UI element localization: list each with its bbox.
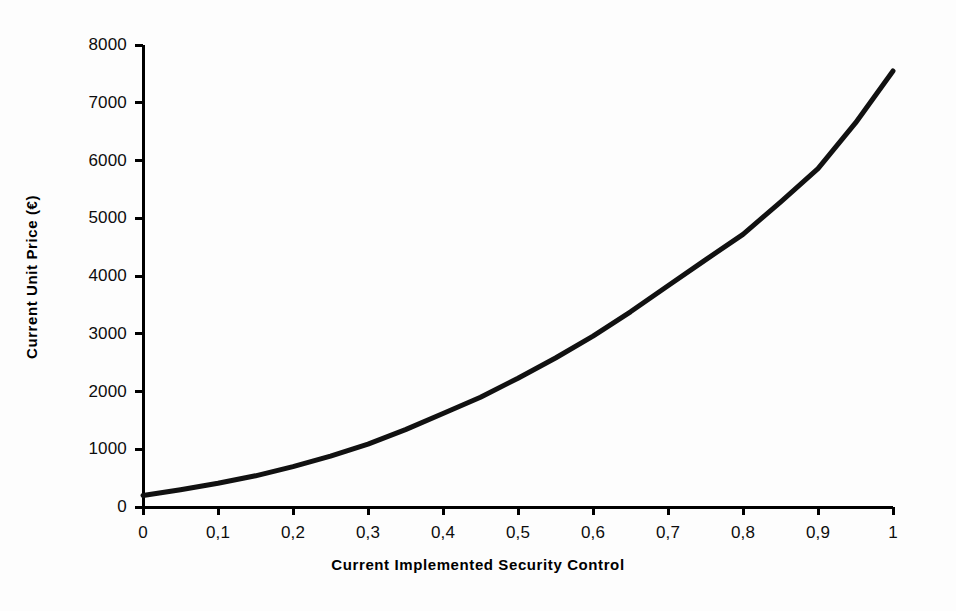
x-tick-label: 0,9 (806, 523, 830, 543)
x-tick-label: 1 (888, 523, 898, 543)
y-tick-label: 0 (57, 497, 127, 517)
y-tick-label: 5000 (57, 208, 127, 228)
x-tick-label: 0,5 (506, 523, 530, 543)
axis-ticks (135, 45, 893, 515)
y-axis-title: Current Unit Price (€) (23, 195, 40, 359)
y-tick-label: 6000 (57, 151, 127, 171)
y-tick-label: 7000 (57, 93, 127, 113)
x-tick-label: 0 (138, 523, 148, 543)
y-tick-label: 4000 (57, 266, 127, 286)
series-line-0 (143, 71, 893, 495)
x-tick-label: 0,3 (356, 523, 380, 543)
data-series (143, 71, 893, 495)
x-tick-label: 0,4 (431, 523, 455, 543)
x-tick-label: 0,2 (281, 523, 305, 543)
axes (142, 45, 893, 507)
y-tick-label: 8000 (57, 35, 127, 55)
chart-figure: 010002000300040005000600070008000 00,10,… (0, 0, 956, 611)
x-tick-label: 0,6 (581, 523, 605, 543)
y-tick-label: 2000 (57, 382, 127, 402)
x-axis-title: Current Implemented Security Control (331, 556, 624, 573)
x-tick-label: 0,1 (206, 523, 230, 543)
y-tick-label: 1000 (57, 439, 127, 459)
x-tick-label: 0,8 (731, 523, 755, 543)
x-tick-label: 0,7 (656, 523, 680, 543)
chart-canvas (0, 0, 956, 611)
y-tick-label: 3000 (57, 324, 127, 344)
